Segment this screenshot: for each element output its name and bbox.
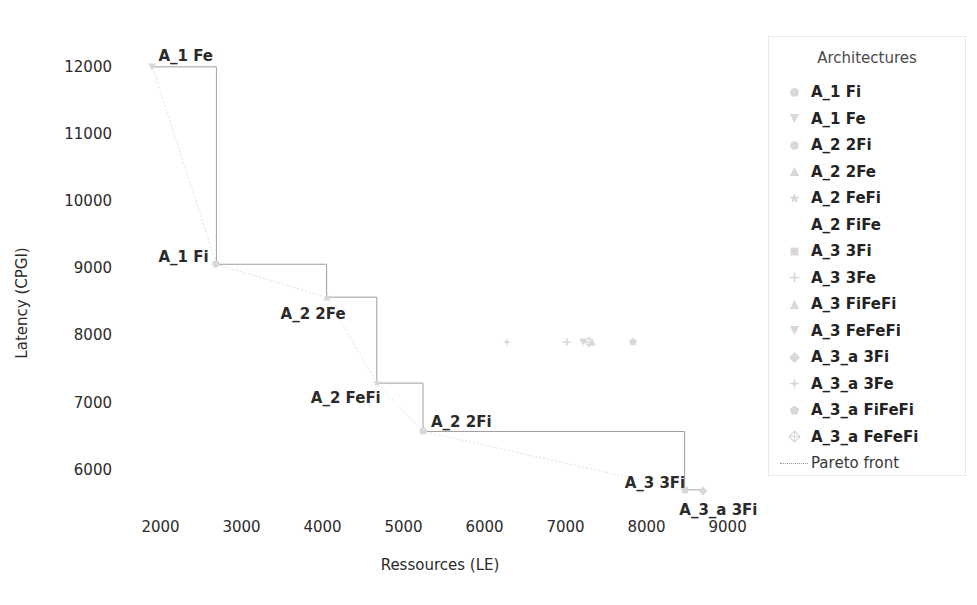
legend-label: Pareto front bbox=[811, 454, 899, 472]
y-tick-6000: 6000 bbox=[74, 461, 112, 479]
x-tick-7000: 7000 bbox=[546, 518, 584, 536]
x-tick-3000: 3000 bbox=[222, 518, 260, 536]
pareto-line-swatch bbox=[780, 463, 808, 464]
y-tick-9000: 9000 bbox=[74, 259, 112, 277]
legend-label: A_2 2Fi bbox=[811, 136, 872, 154]
triangle-up-icon bbox=[777, 166, 811, 177]
pareto-chart-figure: Latency (CPGI) Ressources (LE) 600070008… bbox=[0, 0, 977, 605]
annotation-a-2-2fe: A_2 2Fe bbox=[281, 305, 346, 323]
legend-entry-a-3-a-fifefi[interactable]: A_3_a FiFeFi bbox=[777, 397, 957, 424]
plot-canvas bbox=[120, 40, 760, 510]
plot-area: 6000700080009000100001100012000 20003000… bbox=[120, 40, 760, 510]
data-point-a-1-fe bbox=[148, 62, 157, 71]
x-axis-label: Ressources (LE) bbox=[381, 556, 500, 574]
data-point-a-3-a-3fi bbox=[699, 486, 708, 495]
annotation-a-1-fi: A_1 Fi bbox=[158, 248, 208, 266]
legend-entry-a-1-fe[interactable]: A_1 Fe bbox=[777, 106, 957, 133]
data-point-a-3-a-fifefi bbox=[628, 338, 637, 347]
x-tick-2000: 2000 bbox=[141, 518, 179, 536]
pentagon-icon bbox=[777, 405, 811, 416]
legend-label: A_3_a FeFeFi bbox=[811, 428, 918, 446]
triangle-down-icon bbox=[777, 325, 811, 336]
legend-entry-a-3-a-3fi[interactable]: A_3_a 3Fi bbox=[777, 344, 957, 371]
octagon-icon bbox=[777, 87, 811, 98]
data-point-a-3-a-3fe bbox=[503, 338, 512, 347]
y-tick-11000: 11000 bbox=[64, 125, 112, 143]
x-tick-8000: 8000 bbox=[627, 518, 665, 536]
legend-label: A_2 FeFi bbox=[811, 189, 881, 207]
y-tick-7000: 7000 bbox=[74, 394, 112, 412]
diamond-plus-icon bbox=[777, 431, 811, 442]
data-point-a-2-fife bbox=[542, 338, 551, 347]
star-icon bbox=[777, 193, 811, 204]
plus-icon bbox=[777, 272, 811, 283]
x-tick-9000: 9000 bbox=[709, 518, 747, 536]
pareto-connector-line bbox=[152, 67, 703, 491]
legend-entry-a-3-3fi[interactable]: A_3 3Fi bbox=[777, 238, 957, 265]
legend-label: A_3 FiFeFi bbox=[811, 295, 896, 313]
triangle-up-icon bbox=[777, 299, 811, 310]
legend-entry-pareto-front[interactable]: Pareto front bbox=[777, 450, 957, 477]
triangle-down-icon bbox=[777, 113, 811, 124]
legend-entry-a-2-fife[interactable]: A_2 FiFe bbox=[777, 212, 957, 239]
legend-label: A_3 3Fe bbox=[811, 269, 876, 287]
legend-entry-a-3-fefefi[interactable]: A_3 FeFeFi bbox=[777, 318, 957, 345]
legend-entry-a-3-3fe[interactable]: A_3 3Fe bbox=[777, 265, 957, 292]
legend-label: A_2 2Fe bbox=[811, 163, 876, 181]
pareto-step-line bbox=[152, 67, 703, 491]
y-axis-label: Latency (CPGI) bbox=[13, 247, 31, 358]
x-tick-5000: 5000 bbox=[384, 518, 422, 536]
legend-label: A_3_a 3Fe bbox=[811, 375, 894, 393]
annotation-a-3-3fi: A_3 3Fi bbox=[625, 474, 686, 492]
legend-entry-a-3-a-3fe[interactable]: A_3_a 3Fe bbox=[777, 371, 957, 398]
legend-entries: A_1 FiA_1 FeA_2 2FiA_2 2FeA_2 FeFiA_2 Fi… bbox=[777, 79, 957, 477]
annotation-a-2-fefi: A_2 FeFi bbox=[311, 389, 381, 407]
legend-label: A_1 Fe bbox=[811, 110, 866, 128]
legend-entry-a-3-a-fefefi[interactable]: A_3_a FeFeFi bbox=[777, 424, 957, 451]
y-tick-12000: 12000 bbox=[64, 58, 112, 76]
y-tick-10000: 10000 bbox=[64, 192, 112, 210]
annotation-a-3-a-3fi: A_3_a 3Fi bbox=[679, 501, 757, 519]
legend-label: A_3_a FiFeFi bbox=[811, 401, 914, 419]
y-tick-8000: 8000 bbox=[74, 326, 112, 344]
data-point-a-2-2fe bbox=[322, 293, 331, 302]
legend-label: A_1 Fi bbox=[811, 83, 861, 101]
x-tick-4000: 4000 bbox=[303, 518, 341, 536]
annotation-a-1-fe: A_1 Fe bbox=[158, 47, 213, 65]
data-point-a-3-3fe bbox=[563, 338, 572, 347]
legend-label: A_3 FeFeFi bbox=[811, 322, 901, 340]
data-point-a-1-fi bbox=[212, 260, 221, 269]
legend-label: A_3_a 3Fi bbox=[811, 348, 889, 366]
circle-icon bbox=[777, 140, 811, 151]
diamond-icon bbox=[777, 352, 811, 363]
legend-entry-a-2-fefi[interactable]: A_2 FeFi bbox=[777, 185, 957, 212]
legend-entry-a-2-2fi[interactable]: A_2 2Fi bbox=[777, 132, 957, 159]
legend-label: A_2 FiFe bbox=[811, 216, 881, 234]
legend-entry-a-3-fifefi[interactable]: A_3 FiFeFi bbox=[777, 291, 957, 318]
legend-label: A_3 3Fi bbox=[811, 242, 872, 260]
data-point-a-2-fefi bbox=[372, 379, 381, 388]
line-icon bbox=[777, 463, 811, 464]
star4-icon bbox=[777, 378, 811, 389]
legend-box: Architectures A_1 FiA_1 FeA_2 2FiA_2 2Fe… bbox=[768, 36, 966, 476]
square-icon bbox=[777, 246, 811, 257]
x-tick-6000: 6000 bbox=[465, 518, 503, 536]
legend-entry-a-2-2fe[interactable]: A_2 2Fe bbox=[777, 159, 957, 186]
data-point-a-2-2fi bbox=[418, 427, 427, 436]
legend-title: Architectures bbox=[777, 49, 957, 67]
data-point-a-3-a-fefefi bbox=[585, 338, 594, 347]
annotation-a-2-2fi: A_2 2Fi bbox=[431, 413, 492, 431]
legend-entry-a-1-fi[interactable]: A_1 Fi bbox=[777, 79, 957, 106]
